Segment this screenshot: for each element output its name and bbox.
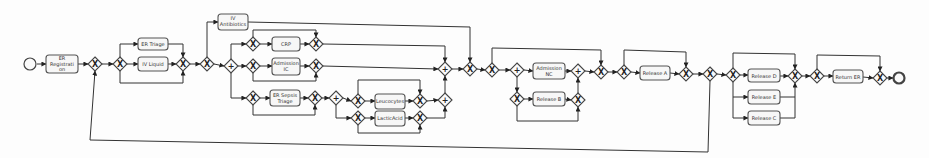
xor-gateway[interactable]: X [571, 93, 585, 107]
task-label: Release E [752, 94, 776, 100]
xor-gateway[interactable]: X [246, 59, 260, 73]
task-release-c[interactable]: Release C [748, 111, 780, 125]
xor-gateway[interactable]: X [309, 59, 323, 73]
xor-gateway[interactable]: X [308, 91, 322, 105]
task-label: Release C [752, 115, 777, 121]
xor-symbol: X [355, 97, 362, 106]
task-label: on [59, 66, 65, 72]
task-label: ER Triage [141, 41, 164, 48]
and-symbol: + [514, 66, 521, 75]
task-er-sepsis-triage[interactable]: ER Sepsis Triage [270, 90, 300, 106]
xor-symbol: X [313, 40, 320, 49]
xor-gateway[interactable]: X [726, 68, 740, 82]
xor-gateway[interactable]: X [176, 57, 190, 71]
xor-symbol: X [514, 95, 521, 104]
xor-symbol: X [117, 60, 124, 69]
and-gateway[interactable]: + [329, 91, 343, 105]
xor-symbol: X [683, 70, 690, 79]
task-admission-nc[interactable]: Admission NC [533, 63, 565, 79]
xor-gateway[interactable]: X [510, 92, 524, 106]
and-symbol: + [575, 67, 582, 76]
task-label: Leucocytes [376, 98, 404, 105]
task-label: Return ER [836, 74, 861, 80]
xor-symbol: X [730, 71, 737, 80]
task-leucocytes[interactable]: Leucocytes [375, 94, 405, 109]
xor-symbol: X [417, 114, 424, 123]
task-label: Release D [752, 73, 777, 79]
bpmn-diagram: ER Registrati on ER Triage IV Liquid IV … [0, 0, 929, 158]
xor-gateway[interactable]: X [788, 69, 802, 83]
xor-gateway[interactable]: X [309, 37, 323, 51]
task-iv-liquid[interactable]: IV Liquid [138, 57, 168, 71]
task-release-d[interactable]: Release D [748, 69, 780, 82]
task-er-triage[interactable]: ER Triage [138, 38, 168, 50]
task-label: Antibiotics [220, 21, 247, 27]
xor-symbol: X [598, 68, 605, 77]
task-label: Triage [276, 98, 292, 105]
task-label: NC [545, 71, 553, 77]
and-gateway[interactable]: + [224, 59, 238, 73]
xor-symbol: X [621, 68, 628, 77]
task-label: Release B [537, 96, 562, 102]
task-admission-ic[interactable]: Admission IC [272, 58, 300, 75]
task-release-b[interactable]: Release B [533, 92, 565, 106]
task-release-e[interactable]: Release E [748, 90, 780, 104]
xor-symbol: X [312, 94, 319, 103]
xor-symbol: X [707, 70, 714, 79]
xor-symbol: X [877, 74, 884, 83]
task-return-er[interactable]: Return ER [833, 70, 863, 83]
task-lacticacid[interactable]: LacticAcid [375, 111, 405, 126]
and-symbol: + [442, 96, 449, 105]
xor-gateway[interactable]: X [246, 37, 260, 51]
xor-symbol: X [355, 114, 362, 123]
xor-symbol: X [489, 66, 496, 75]
xor-symbol: X [417, 97, 424, 106]
xor-gateway[interactable]: X [617, 65, 631, 79]
xor-symbol: X [92, 60, 99, 69]
and-gateway[interactable]: + [438, 93, 452, 107]
process-model-svg: ER Registrati on ER Triage IV Liquid IV … [0, 0, 929, 158]
xor-gateway[interactable]: X [351, 94, 365, 108]
xor-gateway[interactable]: X [413, 111, 427, 125]
xor-gateway[interactable]: X [88, 57, 102, 71]
xor-gateway[interactable]: X [679, 67, 693, 81]
task-er-registration[interactable]: ER Registrati on [46, 55, 78, 73]
task-label: LacticAcid [377, 115, 402, 121]
xor-symbol: X [180, 60, 187, 69]
task-release-a[interactable]: Release A [640, 66, 670, 80]
xor-symbol: X [250, 62, 257, 71]
task-crp[interactable]: CRP [272, 37, 300, 51]
start-event[interactable] [24, 58, 36, 70]
xor-gateway[interactable]: X [463, 62, 477, 76]
xor-symbol: X [250, 94, 257, 103]
xor-gateway[interactable]: X [351, 111, 365, 125]
xor-gateway[interactable]: X [703, 67, 717, 81]
xor-symbol: X [575, 96, 582, 105]
task-label: CRP [281, 41, 291, 47]
task-label: IV Liquid [142, 61, 164, 68]
xor-symbol: X [467, 65, 474, 74]
xor-gateway[interactable]: X [246, 91, 260, 105]
xor-symbol: X [814, 72, 821, 81]
and-gateway[interactable]: + [510, 63, 524, 77]
xor-gateway[interactable]: X [113, 57, 127, 71]
task-label: Release A [643, 70, 668, 76]
xor-gateway[interactable]: X [485, 63, 499, 77]
xor-gateway[interactable]: X [413, 94, 427, 108]
and-gateway[interactable]: + [438, 62, 452, 76]
and-symbol: + [228, 62, 235, 71]
xor-symbol: X [792, 72, 799, 81]
end-event[interactable] [894, 73, 905, 84]
task-label: IC [284, 66, 289, 72]
xor-gateway[interactable]: X [873, 71, 887, 85]
xor-gateway[interactable]: X [594, 65, 608, 79]
xor-symbol: X [204, 60, 211, 69]
and-symbol: + [442, 65, 449, 74]
xor-symbol: X [313, 62, 320, 71]
xor-gateway[interactable]: X [810, 69, 824, 83]
task-iv-antibiotics[interactable]: IV Antibiotics [218, 14, 248, 30]
xor-symbol: X [250, 40, 257, 49]
xor-gateway[interactable]: X [200, 57, 214, 71]
and-symbol: + [333, 94, 340, 103]
and-gateway[interactable]: + [571, 64, 585, 78]
